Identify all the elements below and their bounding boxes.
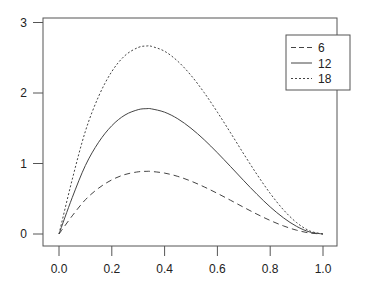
y-tick-label: 2 (20, 86, 27, 100)
y-tick-label: 0 (20, 227, 27, 241)
legend-label: 12 (318, 57, 332, 71)
x-tick-label: 0.0 (51, 262, 68, 276)
x-tick-label: 0.2 (103, 262, 120, 276)
x-tick-label: 1.0 (315, 262, 332, 276)
x-tick-label: 0.6 (209, 262, 226, 276)
line-chart: 0 1 2 3 0.0 0.2 0.4 0.6 0.8 1.0 6 12 18 (0, 0, 385, 284)
legend-label: 6 (318, 41, 325, 55)
x-axis: 0.0 0.2 0.4 0.6 0.8 1.0 (51, 246, 332, 276)
legend: 6 12 18 (286, 35, 350, 90)
x-tick-label: 0.8 (262, 262, 279, 276)
x-tick-label: 0.4 (156, 262, 173, 276)
series-line-18 (59, 46, 323, 234)
y-axis: 0 1 2 3 (20, 16, 43, 242)
y-tick-label: 3 (20, 16, 27, 30)
series-line-12 (59, 108, 323, 234)
legend-label: 18 (318, 72, 332, 86)
y-tick-label: 1 (20, 157, 27, 171)
series-line-6 (59, 171, 323, 234)
series-layer (59, 46, 323, 234)
